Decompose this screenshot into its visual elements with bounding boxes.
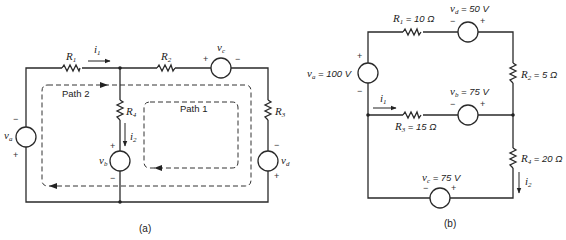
path-1-arrow-icon bbox=[154, 165, 162, 171]
source-vc-b bbox=[430, 188, 450, 208]
circuit-a-wires bbox=[26, 66, 268, 204]
vc-plus: + bbox=[203, 54, 208, 64]
label-va: va bbox=[4, 129, 13, 143]
label-vd-b: vd = 50 V bbox=[450, 2, 490, 16]
path-2-bottom-arrow-icon bbox=[49, 183, 57, 189]
label-path-1: Path 1 bbox=[180, 103, 207, 114]
label-r4: R4 bbox=[125, 105, 137, 119]
figure-a: R1 i1 R2 vc + − R4 i2 R3 Path 2 Path 1 v… bbox=[4, 41, 290, 234]
label-r3: R3 bbox=[274, 105, 286, 119]
label-i1: i1 bbox=[94, 43, 101, 57]
path-2-loop bbox=[42, 85, 251, 186]
resistor-r1-b bbox=[403, 29, 421, 35]
va-minus: − bbox=[13, 114, 18, 124]
label-r1: R1 bbox=[65, 50, 76, 64]
label-r2: R2 bbox=[160, 50, 172, 64]
vd-minus-b: − bbox=[450, 16, 455, 26]
label-r1-b: R1 = 10 Ω bbox=[392, 12, 435, 26]
label-i2-b: i2 bbox=[525, 175, 532, 189]
label-vc: vc bbox=[217, 41, 226, 55]
va-minus-b: − bbox=[357, 86, 362, 96]
vc-minus: − bbox=[235, 54, 240, 64]
vb-plus: + bbox=[110, 141, 115, 151]
resistor-r1 bbox=[62, 65, 80, 71]
vd-plus: + bbox=[274, 171, 279, 181]
label-path-2: Path 2 bbox=[62, 88, 89, 99]
vc-minus-b: − bbox=[423, 183, 428, 193]
vd-plus-b: + bbox=[480, 16, 485, 26]
resistor-r3 bbox=[265, 100, 271, 120]
vd-minus: − bbox=[274, 140, 279, 150]
label-va-b: va = 100 V bbox=[307, 67, 353, 81]
label-i2: i2 bbox=[130, 130, 137, 144]
vc-plus-b: + bbox=[451, 183, 456, 193]
source-vb-b bbox=[458, 105, 478, 125]
source-va-b bbox=[358, 63, 378, 83]
label-vd: vd bbox=[281, 154, 290, 168]
source-va bbox=[16, 127, 36, 147]
va-plus-b: + bbox=[357, 51, 362, 61]
vb-plus-b: + bbox=[480, 99, 485, 109]
resistor-r2 bbox=[157, 65, 175, 71]
label-r3-b: R3 = 15 Ω bbox=[394, 120, 437, 134]
label-r2-b: R2 = 5 Ω bbox=[520, 68, 557, 82]
source-vb bbox=[110, 151, 130, 171]
caption-b: (b) bbox=[444, 218, 456, 229]
label-vb: vb bbox=[99, 154, 108, 168]
source-vd bbox=[258, 151, 278, 171]
circuit-diagrams: R1 i1 R2 vc + − R4 i2 R3 Path 2 Path 1 v… bbox=[0, 0, 566, 240]
resistor-r3-b bbox=[403, 112, 421, 118]
source-vc bbox=[211, 58, 231, 78]
caption-a: (a) bbox=[139, 223, 151, 234]
vb-minus-b: − bbox=[450, 99, 455, 109]
resistor-r4 bbox=[117, 100, 123, 120]
resistor-r4-b bbox=[510, 148, 516, 168]
label-r4-b: R4 = 20 Ω bbox=[520, 152, 563, 166]
resistor-r2-b bbox=[510, 63, 516, 83]
path-2-arrow-icon bbox=[100, 82, 108, 88]
va-plus: + bbox=[13, 150, 18, 160]
label-i1-b: i1 bbox=[380, 92, 387, 106]
label-vb-b: vb = 75 V bbox=[450, 85, 490, 99]
source-vd-b bbox=[458, 22, 478, 42]
vb-minus: − bbox=[110, 173, 115, 183]
figure-b: R1 = 10 Ω vd = 50 V − + va = 100 V + − R… bbox=[307, 2, 563, 229]
